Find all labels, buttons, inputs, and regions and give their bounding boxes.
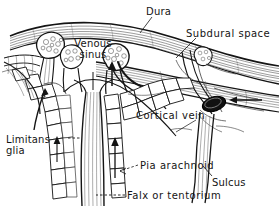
label-limitans-glia: Limitans glia — [6, 134, 68, 156]
label-pia-arachnoid: Pia arachnoid — [140, 160, 214, 171]
label-limitans-glia-line2: glia — [6, 145, 68, 156]
label-venous-sinus-line1: Venous — [62, 38, 124, 49]
cortex-cell-layer-left — [12, 67, 67, 199]
label-venous-sinus: Venous sinus — [62, 38, 124, 60]
label-limitans-glia-line1: Limitans — [6, 134, 68, 145]
cortex-cell-layer-right — [104, 78, 194, 198]
label-cortical-vein: Cortical vein — [136, 110, 205, 121]
label-dura: Dura — [146, 6, 171, 17]
anatomical-figure: Dura Subdural space Venous sinus Cortica… — [0, 0, 279, 208]
label-venous-sinus-line2: sinus — [62, 49, 124, 60]
label-subdural-space: Subdural space — [186, 28, 270, 39]
arachnoid-villus-right — [194, 47, 212, 66]
label-sulcus: Sulcus — [212, 177, 246, 188]
label-falx-or-tentorium: Falx or tentorium — [127, 190, 221, 201]
